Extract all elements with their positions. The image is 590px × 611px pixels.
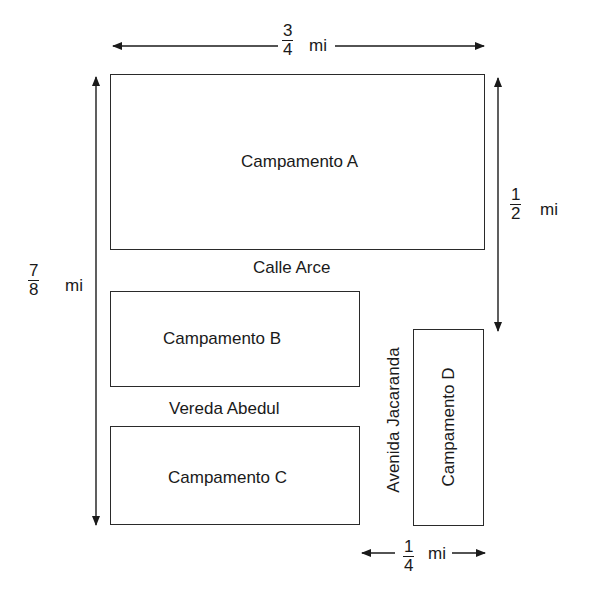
- bottom-dimension-fraction: 1 4: [403, 538, 414, 575]
- bottom-dimension-unit: mi: [428, 544, 446, 564]
- street-avenida-jacaranda: Avenida Jacaranda: [384, 340, 404, 500]
- camp-a-label: Campamento A: [241, 152, 358, 172]
- top-dimension-fraction: 3 4: [282, 22, 293, 59]
- camp-d-label: Campamento D: [439, 362, 459, 492]
- street-vereda-abedul: Vereda Abedul: [169, 399, 280, 419]
- camp-b-label: Campamento B: [163, 329, 281, 349]
- camp-d-box: Campamento D: [413, 329, 484, 526]
- camp-a-box: Campamento A: [110, 74, 485, 250]
- camp-c-box: Campamento C: [110, 426, 360, 525]
- right-dimension-fraction: 1 2: [510, 186, 521, 223]
- camp-c-label: Campamento C: [168, 468, 287, 488]
- camp-b-box: Campamento B: [110, 291, 360, 387]
- left-dimension-unit: mi: [65, 276, 83, 296]
- right-dimension-unit: mi: [540, 200, 558, 220]
- street-calle-arce: Calle Arce: [253, 258, 330, 278]
- top-dimension-unit: mi: [309, 36, 327, 56]
- left-dimension-fraction: 7 8: [28, 262, 39, 299]
